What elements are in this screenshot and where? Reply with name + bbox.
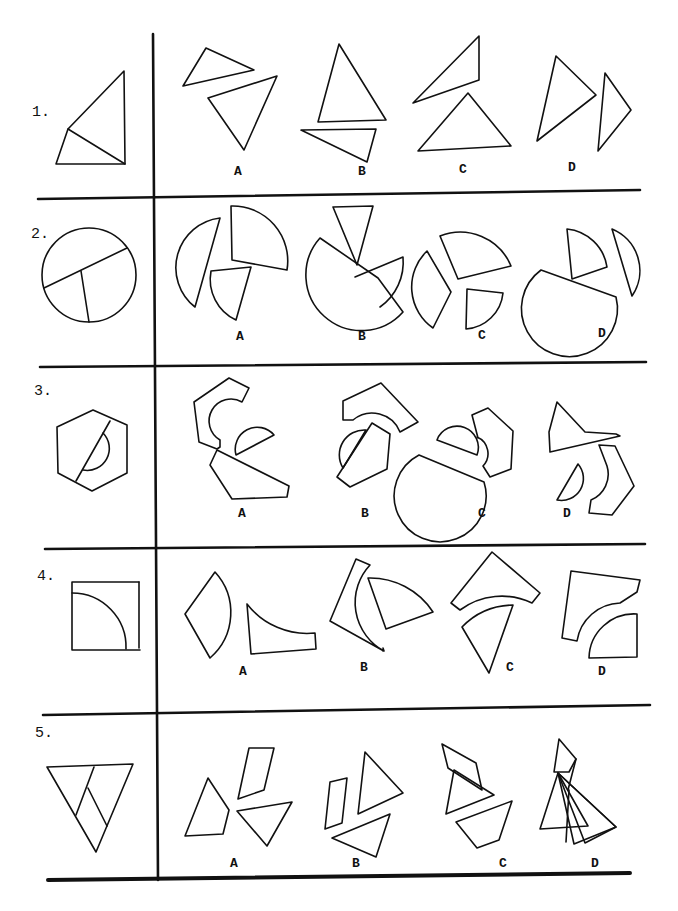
q2-option-a-label[interactable]: A — [236, 329, 244, 344]
q2-option-c-figure — [412, 232, 511, 329]
q5-option-d-figure — [540, 739, 616, 844]
q1-option-a-label[interactable]: A — [234, 164, 242, 179]
vertical-divider — [153, 34, 158, 880]
question-number-1: 1. — [32, 104, 50, 121]
q2-option-a-figure — [176, 206, 288, 320]
q2-option-b-label[interactable]: B — [358, 329, 366, 344]
q4-option-a-figure — [185, 572, 316, 658]
q1-original-figure — [56, 71, 125, 164]
q5-option-a-label[interactable]: A — [230, 856, 238, 871]
q2-original-figure — [42, 228, 136, 322]
q1-option-c-figure — [413, 36, 511, 151]
q2-option-d-figure — [521, 229, 639, 357]
row-divider-1 — [38, 190, 640, 199]
q4-option-c-label[interactable]: C — [506, 660, 514, 675]
q2-option-b-figure — [306, 206, 403, 331]
q5-original-figure — [47, 764, 133, 852]
question-number-5: 5. — [35, 725, 53, 742]
row-divider-5 — [48, 873, 630, 880]
question-number-3: 3. — [34, 383, 52, 400]
q4-option-d-figure — [562, 571, 640, 658]
q3-option-d-figure — [549, 402, 634, 515]
q3-option-b-figure — [337, 383, 418, 487]
q1-option-c-label[interactable]: C — [459, 162, 467, 177]
question-number-2: 2. — [31, 226, 49, 243]
q1-option-d-figure — [537, 56, 631, 151]
row-divider-4 — [43, 705, 650, 715]
q5-option-c-figure — [442, 744, 512, 848]
q5-option-d-label[interactable]: D — [591, 856, 599, 871]
q4-option-c-figure — [451, 552, 540, 673]
q4-option-a-label[interactable]: A — [239, 664, 247, 679]
grid-lines — [38, 34, 650, 880]
q3-option-c-figure — [394, 408, 513, 542]
q5-option-b-label[interactable]: B — [352, 856, 360, 871]
q5-option-c-label[interactable]: C — [499, 856, 507, 871]
test-grid-drawing — [0, 0, 678, 911]
q2-option-d-label[interactable]: D — [598, 326, 606, 341]
q3-original-figure — [57, 410, 127, 491]
q1-option-b-label[interactable]: B — [358, 164, 366, 179]
q4-option-b-label[interactable]: B — [360, 660, 368, 675]
q2-option-c-label[interactable]: C — [478, 328, 486, 343]
q4-option-d-label[interactable]: D — [598, 664, 606, 679]
row-divider-3 — [45, 544, 645, 549]
q3-option-b-label[interactable]: B — [361, 506, 369, 521]
q3-option-c-label[interactable]: C — [478, 506, 486, 521]
q1-option-b-figure — [301, 44, 386, 162]
q5-option-b-figure — [325, 752, 403, 857]
q5-option-a-figure — [185, 748, 292, 846]
q3-option-d-label[interactable]: D — [563, 506, 571, 521]
question-number-4: 4. — [37, 568, 55, 585]
q3-option-a-label[interactable]: A — [238, 506, 246, 521]
q1-option-d-label[interactable]: D — [568, 160, 576, 175]
spatial-reasoning-test-page: 1. 2. 3. 4. 5. A B C D A B C D A B C D A… — [0, 0, 678, 911]
q4-option-b-figure — [330, 559, 433, 651]
row-divider-2 — [40, 362, 646, 367]
q3-option-a-figure — [194, 378, 289, 499]
q1-option-a-figure — [183, 48, 277, 150]
q4-original-figure — [72, 582, 140, 650]
